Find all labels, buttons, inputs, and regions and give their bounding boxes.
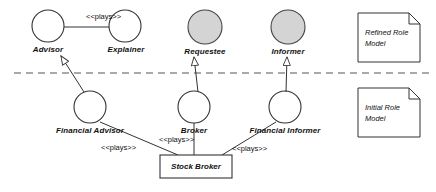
role-label-explainer: Explainer [108, 45, 145, 54]
role-label-informer: Informer [271, 47, 304, 56]
role-label-financial-advisor: Financial Advisor [56, 126, 124, 135]
stereotype-label-plays-top: <<plays>> [86, 12, 121, 21]
class-label-stock-broker: Stock Broker [171, 162, 221, 171]
role-circle-broker[interactable] [178, 91, 210, 123]
note-label-initial-role-model-line1: Initial Role [365, 102, 400, 113]
stereotype-label-plays-right: <<plays>> [232, 144, 267, 153]
role-circle-requestee[interactable] [188, 10, 222, 44]
note-label-initial-role-model-line2: Model [365, 113, 385, 124]
role-label-advisor: Advisor [33, 45, 64, 54]
role-label-requestee: Requestee [184, 47, 225, 56]
role-label-financial-informer: Financial Informer [249, 126, 320, 135]
role-circle-advisor[interactable] [32, 10, 64, 42]
role-circle-financial-advisor[interactable] [74, 91, 106, 123]
role-circle-financial-informer[interactable] [269, 91, 301, 123]
diagram-canvas: Advisor Explainer Requestee Informer Fin… [0, 0, 436, 192]
refinement-arrow-broker-to-requestee [194, 57, 198, 92]
stereotype-label-plays-left: <<plays>> [101, 143, 136, 152]
role-label-broker: Broker [181, 126, 207, 135]
note-label-refined-role-model-line1: Refined Role [365, 27, 408, 38]
role-circle-informer[interactable] [271, 10, 305, 44]
refinement-arrow-financial-informer-to-informer [286, 57, 287, 92]
refinement-arrow-financial-advisor-to-advisor [61, 56, 84, 92]
note-label-refined-role-model-line2: Model [365, 38, 385, 49]
stereotype-label-plays-mid: <<plays>> [159, 135, 194, 144]
